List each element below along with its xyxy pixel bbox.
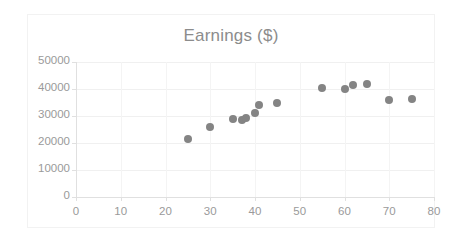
- y-axis-tick-label: 10000: [10, 162, 70, 174]
- data-point[interactable]: [255, 101, 263, 109]
- data-point[interactable]: [341, 85, 349, 93]
- data-point[interactable]: [273, 99, 281, 107]
- x-axis-tick-mark: [76, 197, 77, 201]
- y-axis-tick-mark: [72, 170, 76, 171]
- x-axis-tick-label: 40: [235, 205, 275, 217]
- x-axis-tick-label: 20: [146, 205, 186, 217]
- x-axis-tick-mark: [345, 197, 346, 201]
- y-axis-tick-mark: [72, 143, 76, 144]
- data-point[interactable]: [363, 80, 371, 88]
- data-point[interactable]: [229, 115, 237, 123]
- data-point[interactable]: [318, 84, 326, 92]
- x-axis-tick-label: 50: [280, 205, 320, 217]
- data-point[interactable]: [242, 114, 250, 122]
- y-axis-line: [76, 62, 77, 198]
- data-point[interactable]: [206, 123, 214, 131]
- x-axis-tick-label: 30: [190, 205, 230, 217]
- gridline-vertical: [345, 62, 346, 197]
- y-axis-tick-mark: [72, 116, 76, 117]
- y-axis-tick-label: 20000: [10, 135, 70, 147]
- y-axis-tick-mark: [72, 62, 76, 63]
- y-axis-tick-mark: [72, 89, 76, 90]
- plot-area: [76, 62, 434, 197]
- data-point[interactable]: [408, 95, 416, 103]
- gridline-vertical: [389, 62, 390, 197]
- gridline-vertical: [166, 62, 167, 197]
- gridline-vertical: [300, 62, 301, 197]
- y-axis-tick-label: 40000: [10, 81, 70, 93]
- y-axis-tick-label: 30000: [10, 108, 70, 120]
- x-axis-tick-mark: [389, 197, 390, 201]
- x-axis-tick-mark: [434, 197, 435, 201]
- data-point[interactable]: [385, 96, 393, 104]
- x-axis-tick-mark: [121, 197, 122, 201]
- x-axis-tick-mark: [255, 197, 256, 201]
- x-axis-tick-mark: [300, 197, 301, 201]
- y-axis-tick-label: 50000: [10, 54, 70, 66]
- data-point[interactable]: [184, 135, 192, 143]
- x-axis-tick-label: 10: [101, 205, 141, 217]
- chart-container: Earnings ($) 01000020000300004000050000 …: [0, 0, 462, 242]
- x-axis-tick-mark: [210, 197, 211, 201]
- x-axis-tick-mark: [166, 197, 167, 201]
- gridline-vertical: [121, 62, 122, 197]
- data-point[interactable]: [349, 81, 357, 89]
- x-axis-tick-label: 60: [325, 205, 365, 217]
- x-axis-tick-label: 0: [56, 205, 96, 217]
- x-axis-tick-label: 80: [414, 205, 454, 217]
- gridline-vertical: [434, 62, 435, 197]
- x-axis-tick-label: 70: [369, 205, 409, 217]
- y-axis-tick-label: 0: [10, 189, 70, 201]
- gridline-vertical: [255, 62, 256, 197]
